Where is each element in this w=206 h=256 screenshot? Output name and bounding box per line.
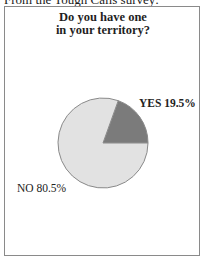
- slice-label-yes: YES 19.5%: [139, 97, 196, 109]
- slice-label-no: NO 80.5%: [17, 182, 66, 194]
- pie-slices: [58, 98, 148, 188]
